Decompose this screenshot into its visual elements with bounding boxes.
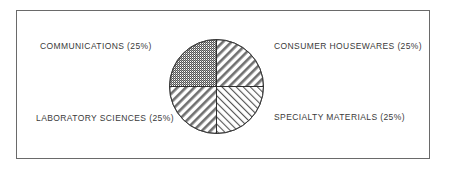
slice-consumer-housewares bbox=[217, 40, 264, 87]
pie-chart bbox=[0, 0, 452, 171]
slice-specialty-materials bbox=[217, 87, 264, 134]
slice-communications bbox=[170, 40, 217, 87]
slice-laboratory-sciences bbox=[170, 87, 217, 134]
